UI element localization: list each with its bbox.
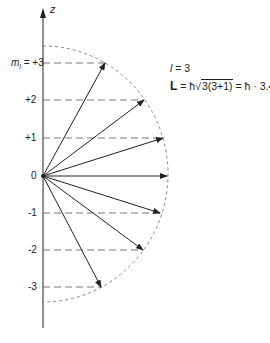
level-label-plus1: +1 (25, 133, 36, 143)
z-axis (40, 8, 46, 328)
level-label-plus2: +2 (25, 95, 36, 105)
z-axis-label: z (50, 4, 56, 14)
L-equation: L = ħ√3(3+1) = ħ · 3.47 (170, 79, 270, 93)
origin-dot (41, 174, 45, 178)
vector-model-diagram (0, 0, 270, 343)
level-label-plus3: ml = +3 (11, 58, 44, 72)
level-label-minus3: -3 (28, 282, 37, 292)
level-label-zero: 0 (31, 171, 37, 181)
semicircle-boundary (43, 46, 168, 302)
l-equation: l = 3 (170, 62, 190, 74)
projection-lines (43, 63, 163, 287)
level-label-minus1: -1 (28, 208, 37, 218)
level-label-minus2: -2 (28, 245, 37, 255)
angular-momentum-vectors (43, 63, 167, 287)
